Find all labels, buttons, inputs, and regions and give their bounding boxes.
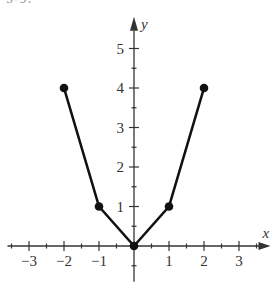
y-tick-label: 5: [117, 41, 125, 57]
data-point-marker: [165, 202, 174, 211]
y-tick-label: 1: [117, 199, 125, 215]
y-tick-label: 2: [117, 159, 125, 175]
x-tick-label: 3: [235, 253, 243, 269]
x-tick-label: 2: [200, 253, 208, 269]
axis-labels: xy: [139, 16, 270, 241]
y-axis-label: y: [139, 16, 148, 32]
x-tick-label: −3: [21, 253, 37, 269]
x-axis-arrow-icon: [259, 242, 271, 250]
y-axis-arrow-icon: [130, 17, 138, 31]
y-tick-label: 3: [117, 120, 125, 136]
x-axis-label: x: [262, 225, 270, 241]
chart: −3−2−112312345 xy: [0, 0, 277, 286]
x-tick-label: −2: [56, 253, 72, 269]
x-tick-label: 1: [165, 253, 173, 269]
data-point-marker: [200, 84, 209, 93]
data-point-marker: [60, 84, 69, 93]
data-point-marker: [95, 202, 104, 211]
x-tick-label: −1: [91, 253, 107, 269]
axis-tick-labels: −3−2−112312345: [21, 41, 243, 270]
chart-canvas: −3−2−112312345 xy: [0, 0, 277, 286]
y-tick-label: 4: [117, 80, 125, 96]
data-point-marker: [130, 242, 139, 251]
